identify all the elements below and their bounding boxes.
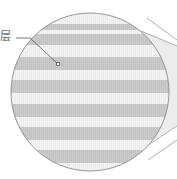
layer-stripe <box>0 150 177 163</box>
magnified-layers-diagram <box>0 0 177 179</box>
layer-stripe <box>0 127 177 140</box>
layer-label: 层 <box>0 31 11 43</box>
diagram-stage: 层 <box>0 0 177 179</box>
layer-stripe <box>0 57 177 70</box>
layer-stripe <box>0 24 177 30</box>
funnel-bottom-outer-line <box>148 140 177 160</box>
leader-marker <box>57 63 60 66</box>
layer-stripe <box>0 104 177 117</box>
layer-stripe <box>0 80 177 93</box>
